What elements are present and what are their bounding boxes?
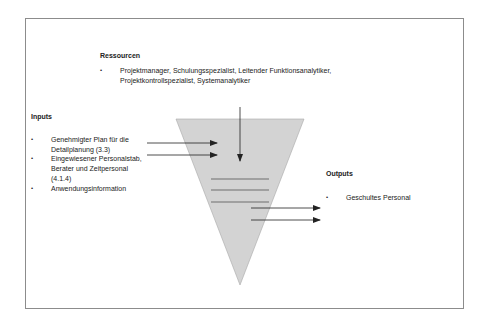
resources-heading: Ressourcen xyxy=(100,52,140,59)
outputs-item: Geschultes Personal xyxy=(326,193,446,203)
inputs-item: Eingewiesener Personalstab, Berater und … xyxy=(31,154,146,183)
inputs-item: Anwendungsinformation xyxy=(31,184,146,194)
inputs-item: Genehmigter Plan für die Detailplanung (… xyxy=(31,135,146,154)
inputs-heading: Inputs xyxy=(31,113,52,120)
outputs-heading: Outputs xyxy=(326,170,353,177)
resources-item: Projektmanager, Schulungsspezialist, Lei… xyxy=(100,66,350,85)
resources-list: Projektmanager, Schulungsspezialist, Lei… xyxy=(100,66,350,85)
outputs-list: Geschultes Personal xyxy=(326,193,446,203)
inputs-list: Genehmigter Plan für die Detailplanung (… xyxy=(31,135,146,193)
